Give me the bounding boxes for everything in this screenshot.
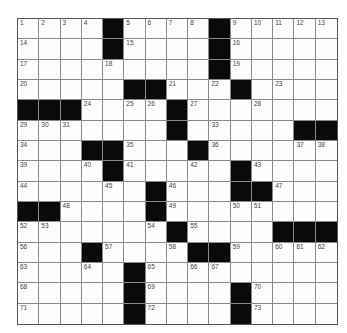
grid-cell[interactable] — [61, 283, 82, 303]
grid-cell[interactable] — [316, 80, 337, 100]
grid-cell[interactable]: 10 — [252, 19, 273, 39]
grid-cell[interactable] — [316, 182, 337, 202]
grid-cell[interactable]: 5 — [124, 19, 145, 39]
grid-cell[interactable] — [82, 304, 103, 324]
grid-cell[interactable] — [146, 141, 167, 161]
grid-cell[interactable]: 71 — [18, 304, 39, 324]
grid-cell[interactable] — [61, 243, 82, 263]
grid-cell[interactable] — [273, 304, 294, 324]
grid-cell[interactable] — [61, 222, 82, 242]
grid-cell[interactable] — [209, 100, 230, 120]
grid-cell[interactable] — [294, 100, 315, 120]
grid-cell[interactable] — [39, 39, 60, 59]
grid-cell[interactable] — [294, 161, 315, 181]
grid-cell[interactable] — [39, 80, 60, 100]
grid-cell[interactable]: 53 — [39, 222, 60, 242]
grid-cell[interactable] — [316, 304, 337, 324]
grid-cell[interactable]: 19 — [231, 60, 252, 80]
grid-cell[interactable] — [124, 182, 145, 202]
grid-cell[interactable] — [273, 283, 294, 303]
grid-cell[interactable] — [294, 60, 315, 80]
grid-cell[interactable] — [146, 161, 167, 181]
grid-cell[interactable] — [252, 121, 273, 141]
grid-cell[interactable] — [231, 222, 252, 242]
grid-cell[interactable]: 68 — [18, 283, 39, 303]
grid-cell[interactable] — [82, 202, 103, 222]
grid-cell[interactable]: 35 — [124, 141, 145, 161]
grid-cell[interactable] — [103, 222, 124, 242]
grid-cell[interactable]: 28 — [252, 100, 273, 120]
grid-cell[interactable] — [273, 141, 294, 161]
grid-cell[interactable] — [61, 80, 82, 100]
grid-cell[interactable] — [82, 182, 103, 202]
grid-cell[interactable] — [209, 304, 230, 324]
grid-cell[interactable]: 29 — [18, 121, 39, 141]
grid-cell[interactable] — [188, 182, 209, 202]
grid-cell[interactable] — [294, 304, 315, 324]
grid-cell[interactable]: 43 — [252, 161, 273, 181]
grid-cell[interactable] — [103, 80, 124, 100]
grid-cell[interactable] — [273, 60, 294, 80]
grid-cell[interactable]: 36 — [209, 141, 230, 161]
grid-cell[interactable] — [61, 161, 82, 181]
grid-cell[interactable] — [209, 182, 230, 202]
grid-cell[interactable]: 26 — [146, 100, 167, 120]
grid-cell[interactable]: 62 — [316, 243, 337, 263]
grid-cell[interactable] — [124, 222, 145, 242]
grid-cell[interactable]: 37 — [294, 141, 315, 161]
grid-cell[interactable]: 73 — [252, 304, 273, 324]
grid-cell[interactable]: 1 — [18, 19, 39, 39]
grid-cell[interactable] — [82, 39, 103, 59]
grid-cell[interactable]: 7 — [167, 19, 188, 39]
grid-cell[interactable]: 38 — [316, 141, 337, 161]
grid-cell[interactable]: 45 — [103, 182, 124, 202]
grid-cell[interactable] — [188, 60, 209, 80]
grid-cell[interactable] — [167, 283, 188, 303]
grid-cell[interactable] — [231, 100, 252, 120]
grid-cell[interactable] — [273, 263, 294, 283]
grid-cell[interactable]: 40 — [82, 161, 103, 181]
grid-cell[interactable] — [316, 100, 337, 120]
grid-cell[interactable] — [61, 141, 82, 161]
grid-cell[interactable] — [252, 243, 273, 263]
grid-cell[interactable] — [39, 141, 60, 161]
grid-cell[interactable] — [61, 182, 82, 202]
grid-cell[interactable] — [124, 121, 145, 141]
grid-cell[interactable] — [316, 60, 337, 80]
grid-cell[interactable] — [124, 202, 145, 222]
grid-cell[interactable]: 12 — [294, 19, 315, 39]
grid-cell[interactable]: 46 — [167, 182, 188, 202]
grid-cell[interactable]: 20 — [18, 80, 39, 100]
grid-cell[interactable]: 16 — [231, 39, 252, 59]
grid-cell[interactable] — [39, 182, 60, 202]
grid-cell[interactable]: 65 — [146, 263, 167, 283]
grid-cell[interactable]: 14 — [18, 39, 39, 59]
grid-cell[interactable]: 25 — [124, 100, 145, 120]
grid-cell[interactable]: 56 — [18, 243, 39, 263]
grid-cell[interactable]: 60 — [273, 243, 294, 263]
grid-cell[interactable] — [294, 182, 315, 202]
grid-cell[interactable]: 67 — [209, 263, 230, 283]
grid-cell[interactable]: 30 — [39, 121, 60, 141]
grid-cell[interactable] — [167, 263, 188, 283]
grid-cell[interactable] — [273, 121, 294, 141]
grid-cell[interactable] — [124, 243, 145, 263]
grid-cell[interactable] — [316, 202, 337, 222]
grid-cell[interactable] — [209, 222, 230, 242]
grid-cell[interactable] — [167, 39, 188, 59]
grid-cell[interactable] — [103, 304, 124, 324]
grid-cell[interactable] — [167, 60, 188, 80]
grid-cell[interactable]: 55 — [188, 222, 209, 242]
grid-cell[interactable]: 44 — [18, 182, 39, 202]
grid-cell[interactable] — [252, 60, 273, 80]
grid-cell[interactable]: 34 — [18, 141, 39, 161]
grid-cell[interactable]: 70 — [252, 283, 273, 303]
grid-cell[interactable]: 17 — [18, 60, 39, 80]
grid-cell[interactable] — [146, 60, 167, 80]
grid-cell[interactable] — [82, 222, 103, 242]
grid-cell[interactable] — [316, 39, 337, 59]
grid-cell[interactable] — [103, 100, 124, 120]
grid-cell[interactable]: 15 — [124, 39, 145, 59]
grid-cell[interactable] — [231, 263, 252, 283]
grid-cell[interactable]: 51 — [252, 202, 273, 222]
